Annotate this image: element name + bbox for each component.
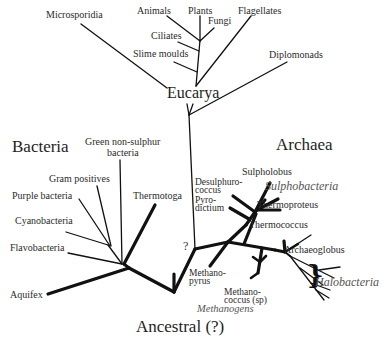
label-bacteria: Bacteria [12,138,69,155]
label-archaea: Archaea [276,136,333,153]
fungi-branch [200,28,214,41]
flavobacteria-branch [68,253,122,264]
label-thermotoga: Thermotoga [133,191,182,201]
pyrodictium-branch [230,208,249,219]
group-sulphobacteria: Sulphobacteria [265,180,338,192]
slime-moulds-branch [174,62,197,72]
label-aquifex: Aquifex [10,290,43,300]
bacteria-branch [129,268,174,292]
label-desulphurococcus-2: coccus [195,186,221,194]
label-cyanobacteria: Cyanobacteria [15,216,73,226]
phylogenetic-tree [0,0,387,340]
aquifex-branch [48,268,129,294]
thermotoga-branch [124,205,155,264]
label-thermoproteus: Thermoproteus [257,200,318,210]
label-microsporidia: Microsporidia [46,10,103,20]
label-fungi: Fungi [208,16,231,26]
label-slime-moulds: Slime moulds [133,49,188,59]
label-flavobacteria: Flavobacteria [10,243,64,253]
label-thermococcus: Thermococcus [249,220,308,230]
label-green-nonsulphur: Green non-sulphur [85,137,160,147]
green-nonsulphur-branch [120,160,122,264]
group-methanogens: Methanogens [197,304,254,315]
eucarya-crown-stem [196,40,200,86]
desulphurococcus-branch [233,196,255,212]
label-pyrodictium-2: dictium [195,204,224,212]
label-purple-bacteria: Purple bacteria [12,191,72,201]
flagellates-branch [196,16,251,86]
label-diplomonads: Diplomonads [269,50,323,60]
label-eucarya: Eucarya [167,85,219,101]
label-methanopyrus-2: pyrus [189,277,210,285]
label-sulpholobus: Sulpholobus [242,167,292,177]
label-green-nonsulphur-2: bacteria [107,148,139,158]
label-flagellates: Flagellates [238,6,281,16]
label-archaeoglobus: Archaeoglobus [284,245,345,255]
label-ciliates: Ciliates [151,31,182,41]
group-halobacteria: Halobacteria [315,276,379,288]
uncertain-marker: ? [183,240,188,252]
label-gram-positives: Gram positives [49,174,110,184]
label-ancestral: Ancestral (?) [136,318,224,335]
label-animals: Animals [137,6,171,16]
